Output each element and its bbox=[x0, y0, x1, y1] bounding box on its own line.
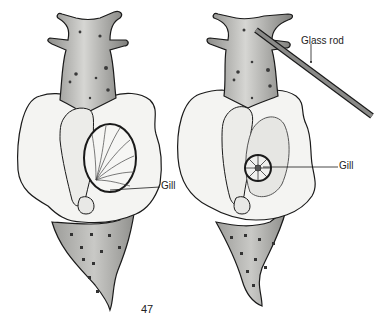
right-gill-label: Gill bbox=[339, 161, 353, 171]
right-tail bbox=[216, 210, 286, 306]
left-siphon bbox=[78, 197, 94, 214]
left-gill-label: Gill bbox=[161, 181, 175, 191]
page-number: 47 bbox=[141, 303, 153, 315]
glass-rod-label: Glass rod bbox=[301, 36, 344, 46]
left-slug-illustration bbox=[18, 11, 162, 310]
right-siphon bbox=[234, 197, 250, 214]
figure-canvas: Gill Glass rod Gill 47 bbox=[0, 0, 380, 322]
right-gill-lamellae bbox=[246, 156, 270, 180]
